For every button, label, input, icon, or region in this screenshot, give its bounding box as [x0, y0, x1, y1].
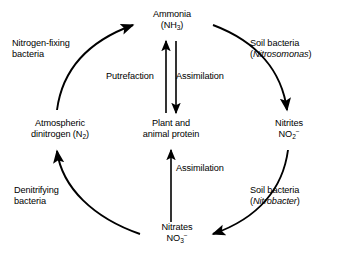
- label-denitrifying-bacteria: Denitrifying bacteria: [14, 185, 100, 207]
- nitrosomonas-paren-close: ): [308, 49, 311, 59]
- nitrites-formula-pre: NO: [279, 129, 293, 139]
- nitrogen-fixing-line2: bacteria: [12, 49, 44, 59]
- protein-line1: Plant and: [152, 118, 190, 128]
- label-assimilation-lower: Assimilation: [176, 163, 242, 174]
- node-nitrates-formula: NO3−: [167, 233, 188, 243]
- node-nitrites-name: Nitrites: [275, 118, 303, 128]
- dinitrogen-formula-sub: 2: [82, 133, 86, 140]
- nitrogen-fixing-line1: Nitrogen-fixing: [12, 38, 70, 48]
- nitrosomonas-species: Nitrosomonas: [253, 49, 308, 59]
- nitrogen-cycle-diagram: Ammonia (NH3) Nitrites NO2− Nitrates NO3…: [0, 0, 342, 259]
- denitrifying-line1: Denitrifying: [14, 185, 59, 195]
- nitrates-formula-charge: −: [184, 232, 188, 239]
- nitrobacter-line1: Soil bacteria: [250, 185, 299, 195]
- label-nitrogen-fixing-bacteria: Nitrogen-fixing bacteria: [12, 38, 106, 60]
- dinitrogen-line2: dinitrogen (N2): [31, 129, 89, 139]
- nitrobacter-line2: (Nitrobacter): [250, 196, 300, 206]
- ammonia-formula-post: ): [180, 20, 183, 30]
- nitrates-formula-pre: NO: [167, 233, 181, 243]
- dinitrogen-line1: Atmospheric: [35, 118, 85, 128]
- label-assimilation-upper: Assimilation: [176, 71, 242, 82]
- node-ammonia-formula: (NH3): [161, 20, 184, 30]
- nitrosomonas-line2: (Nitrosomonas): [250, 49, 311, 59]
- node-nitrites-formula: NO2−: [279, 129, 300, 139]
- protein-line2: animal protein: [143, 129, 199, 139]
- node-nitrates: Nitrates NO3−: [146, 222, 208, 244]
- node-ammonia-name: Ammonia: [153, 9, 191, 19]
- node-atmospheric-dinitrogen: Atmospheric dinitrogen (N2): [8, 118, 112, 140]
- label-soil-bacteria-nitrobacter: Soil bacteria (Nitrobacter): [250, 185, 338, 207]
- nitrobacter-species: Nitrobacter: [253, 196, 297, 206]
- node-plant-animal-protein: Plant and animal protein: [128, 118, 214, 140]
- dinitrogen-formula-post: ): [86, 129, 89, 139]
- node-ammonia: Ammonia (NH3): [126, 9, 218, 31]
- nitrobacter-paren-close: ): [297, 196, 300, 206]
- denitrifying-line2: bacteria: [14, 196, 46, 206]
- ammonia-formula-sub: 3: [177, 24, 181, 31]
- nitrosomonas-line1: Soil bacteria: [250, 38, 299, 48]
- label-putrefaction: Putrefaction: [106, 71, 168, 82]
- node-nitrates-name: Nitrates: [162, 222, 193, 232]
- node-nitrites: Nitrites NO2−: [258, 118, 320, 140]
- ammonia-formula-pre: (NH: [161, 20, 177, 30]
- dinitrogen-formula-pre: dinitrogen (N: [31, 129, 82, 139]
- label-soil-bacteria-nitrosomonas: Soil bacteria (Nitrosomonas): [250, 38, 340, 60]
- nitrites-formula-charge: −: [296, 128, 300, 135]
